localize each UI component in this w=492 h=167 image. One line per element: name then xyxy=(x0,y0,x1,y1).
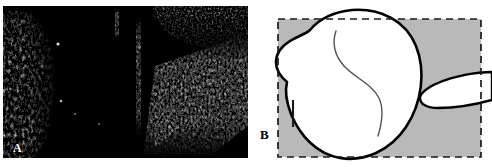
scanline-texture xyxy=(3,6,248,158)
schematic-graphic xyxy=(248,0,492,167)
panel-b-label: B xyxy=(260,128,269,141)
ultrasound-speckle-graphic xyxy=(3,6,248,158)
figure-container: A B xyxy=(0,0,492,167)
panel-b-schematic-diagram: B xyxy=(248,0,492,167)
panel-a-label: A xyxy=(13,142,22,154)
panel-a-ultrasound-image: A xyxy=(3,6,248,158)
